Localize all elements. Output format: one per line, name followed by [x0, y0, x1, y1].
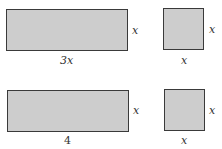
square-x-by-x [164, 89, 205, 131]
rectangle-3x-by-x [6, 9, 128, 51]
width-label: x [181, 55, 187, 66]
height-label: x [133, 105, 139, 116]
square-x-by-x [163, 8, 204, 50]
rectangle-4-by-x [7, 90, 129, 132]
width-label: x [181, 135, 187, 146]
height-label: x [209, 24, 215, 35]
height-label: x [209, 105, 215, 116]
height-label: x [132, 25, 138, 36]
width-label: 4 [64, 135, 71, 146]
width-label: 3x [60, 55, 73, 66]
